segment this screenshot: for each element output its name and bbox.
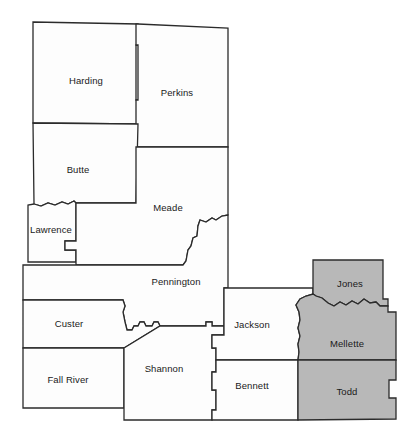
county-map-container: HardingPerkinsButteLawrenceMeadePenningt… (0, 0, 419, 443)
county-shapes-layer (23, 22, 396, 420)
county-area-harding[interactable] (33, 22, 138, 124)
county-area-todd[interactable] (298, 360, 396, 420)
county-area-perkins[interactable] (136, 24, 228, 147)
county-map-svg: HardingPerkinsButteLawrenceMeadePenningt… (0, 0, 419, 443)
county-area-fall-river[interactable] (23, 348, 124, 408)
county-area-butte[interactable] (33, 123, 138, 206)
county-area-lawrence[interactable] (28, 201, 76, 262)
county-area-bennett[interactable] (212, 360, 298, 420)
county-area-jackson[interactable] (212, 288, 313, 360)
